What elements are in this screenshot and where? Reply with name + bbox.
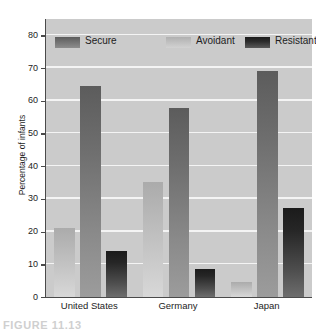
y-axis-tick-label: 0	[0, 292, 38, 302]
x-axis-label-united-states: United States	[45, 300, 134, 311]
y-axis-tick-label: 10	[0, 259, 38, 269]
y-axis-tick-label: 50	[0, 128, 38, 138]
y-axis-tick-label: 20	[0, 226, 38, 236]
bar-chart-figure: Percentage of infants 01020304050607080 …	[0, 0, 316, 331]
x-axis-label-germany: Germany	[134, 300, 223, 311]
y-axis-tick-label: 60	[0, 95, 38, 105]
legend-label: Secure	[85, 35, 117, 46]
legend-label: Resistant	[275, 35, 316, 46]
plot-area	[45, 19, 312, 298]
y-axis-title: Percentage of infants	[17, 55, 27, 255]
legend-swatch-secure-icon	[55, 37, 80, 48]
bar-avoidant-united-states	[54, 228, 75, 297]
figure-caption: FIGURE 11.13	[3, 319, 82, 331]
bar-avoidant-germany	[143, 182, 164, 297]
bar-secure-japan	[257, 71, 278, 297]
bar-resistant-japan	[283, 208, 304, 297]
gridline	[46, 66, 312, 68]
y-axis-tick-label: 80	[0, 30, 38, 40]
y-axis-tick-label: 70	[0, 63, 38, 73]
y-axis-tick-label: 40	[0, 161, 38, 171]
bar-avoidant-japan	[231, 282, 252, 297]
bar-resistant-germany	[195, 269, 216, 297]
bar-secure-germany	[169, 108, 190, 297]
x-axis-label-japan: Japan	[222, 300, 311, 311]
y-axis-tick-label: 30	[0, 193, 38, 203]
legend-swatch-resistant-icon	[245, 37, 270, 48]
bar-secure-united-states	[80, 86, 101, 297]
legend-label: Avoidant	[196, 35, 235, 46]
bar-resistant-united-states	[106, 251, 127, 297]
legend-swatch-avoidant-icon	[166, 37, 191, 48]
